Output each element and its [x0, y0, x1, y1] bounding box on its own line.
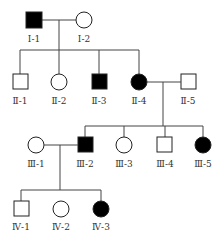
individual-II-1-male [13, 74, 28, 89]
individual-IV-1-male [14, 201, 29, 216]
label-III-3: Ⅲ-3 [115, 159, 133, 169]
label-II-1: Ⅱ-1 [13, 96, 28, 106]
individual-II-3-male-affected [92, 74, 107, 89]
label-I-2: Ⅰ-2 [78, 34, 90, 44]
label-IV-3: Ⅳ-3 [92, 222, 110, 232]
individual-IV-3-female-affected [93, 201, 109, 217]
label-IV-2: Ⅳ-2 [52, 222, 70, 232]
label-II-2: Ⅱ-2 [52, 96, 67, 106]
individual-I-1-male-affected [26, 12, 42, 28]
label-I-1: Ⅰ-1 [28, 34, 40, 44]
label-III-2: Ⅲ-2 [76, 159, 93, 169]
label-III-4: Ⅲ-4 [156, 159, 174, 169]
individual-III-1-female [28, 137, 44, 153]
individual-II-5-male [181, 74, 196, 89]
individual-II-4-female-affected [131, 74, 147, 90]
individual-II-2-female [51, 74, 67, 90]
label-II-4: Ⅱ-4 [132, 96, 147, 106]
pedigree-chart: Ⅰ-1 Ⅰ-2 Ⅱ-1 Ⅱ-2 Ⅱ-3 Ⅱ-4 Ⅱ-5 Ⅲ-1 Ⅲ-2 Ⅲ-3 … [0, 0, 220, 237]
label-II-5: Ⅱ-5 [181, 96, 196, 106]
individual-III-3-female [116, 137, 132, 153]
individual-III-5-female-affected [195, 137, 211, 153]
label-II-3: Ⅱ-3 [92, 96, 107, 106]
label-IV-1: Ⅳ-1 [12, 222, 30, 232]
label-III-5: Ⅲ-5 [194, 159, 212, 169]
individual-III-2-male-affected [78, 137, 93, 152]
label-III-1: Ⅲ-1 [27, 159, 44, 169]
individual-IV-2-female [53, 201, 69, 217]
individual-I-2-female [76, 12, 92, 28]
individual-III-4-male [157, 137, 172, 152]
